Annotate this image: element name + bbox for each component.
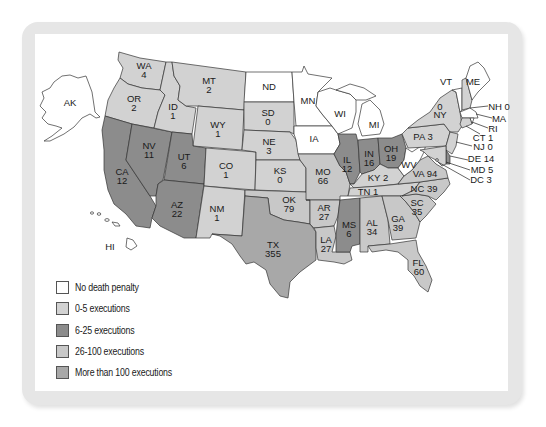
value-SC: 35 [412,206,423,217]
label-ME: ME [466,76,480,87]
value-TX: 355 [265,248,281,259]
label-NY: NY [433,109,447,120]
value-OH: 19 [386,152,397,163]
label-NC: NC 39 [411,183,438,194]
label-DC: DC 3 [470,174,492,185]
value-GA: 39 [393,222,404,233]
state-DC[interactable] [436,159,439,162]
value-OR: 2 [131,102,136,113]
legend-swatch-medium-light [56,345,69,358]
legend-label: 26-100 executions [75,346,144,357]
value-FL: 60 [414,266,425,277]
state-AK[interactable] [40,75,100,141]
label-PA: PA 3 [413,131,432,142]
state-CT[interactable] [460,118,472,128]
map-legend: No death penalty 0-5 executions 6-25 exe… [56,277,185,383]
label-HI: HI [105,241,115,252]
label-MI: MI [369,119,380,130]
value-NE: 3 [266,145,271,156]
label-DE: DE 14 [468,153,494,164]
value-MS: 6 [346,228,351,239]
label-AK: AK [64,97,77,108]
value-LA: 27 [321,243,332,254]
island-hi-2 [97,213,101,216]
value-ID: 1 [170,110,175,121]
value-KS: 0 [277,174,282,185]
value-AR: 27 [319,211,330,222]
label-IA: IA [310,133,320,144]
legend-swatch-light [56,302,69,315]
legend-item-no-death-penalty: No death penalty [56,277,185,298]
value-CA: 12 [117,175,128,186]
label-MN: MN [301,95,316,106]
island-hi-1 [90,212,93,214]
value-WA: 4 [141,69,146,80]
island-hi-4 [112,222,120,226]
label-NJ: NJ 0 [473,141,493,152]
label-KY: KY 2 [368,172,388,183]
legend-item-0-5: 0-5 executions [56,298,185,319]
value-MT: 2 [206,84,211,95]
label-ND: ND [262,81,276,92]
value-CO: 1 [223,169,228,180]
label-WV: WV [401,159,417,170]
label-VT: VT [440,76,452,87]
value-UT: 6 [181,160,186,171]
value-IN: 16 [364,157,375,168]
legend-item-6-25: 6-25 executions [56,320,185,341]
state-HI[interactable] [126,238,137,250]
island-hi-3 [105,219,109,222]
legend-item-26-100: 26-100 executions [56,341,185,362]
legend-label: No death penalty [75,282,139,293]
label-TN: TN 1 [358,186,379,197]
value-NM: 1 [214,212,219,223]
value-IL: 12 [342,163,353,174]
value-NV: 11 [144,149,154,160]
legend-swatch-white [56,281,69,294]
value-SD: 0 [265,116,270,127]
value-AL: 34 [367,226,378,237]
legend-label: More than 100 executions [75,367,172,378]
label-WI: WI [334,108,346,119]
legend-swatch-dark [56,324,69,337]
value-AZ: 22 [172,208,183,219]
value-MO: 66 [318,175,329,186]
legend-swatch-medium [56,366,69,379]
legend-item-100-plus: More than 100 executions [56,362,185,383]
value-WY: 1 [215,128,220,139]
label-NH: NH 0 [488,101,510,112]
legend-label: 6-25 executions [75,325,134,336]
value-OK: 79 [284,203,295,214]
legend-label: 0-5 executions [75,303,130,314]
